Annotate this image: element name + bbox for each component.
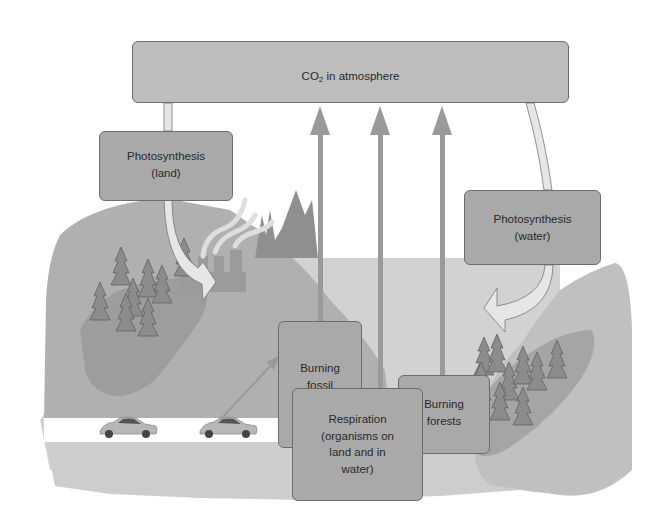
forests-line1: Burning — [424, 396, 464, 413]
respiration-box: Respiration (organisms on land and in wa… — [292, 388, 423, 501]
co2-label-prefix: CO — [302, 70, 319, 82]
photosynthesis-water-box: Photosynthesis (water) — [464, 190, 601, 265]
respiration-line4: water) — [342, 461, 374, 478]
photosynthesis-water-line1: Photosynthesis — [494, 211, 572, 228]
respiration-line3: land and in — [329, 444, 385, 461]
respiration-line2: (organisms on — [321, 428, 394, 445]
photosynthesis-land-line2: (land) — [151, 165, 180, 182]
co2-atmosphere-box: CO2 in atmosphere — [132, 41, 569, 103]
forests-line2: forests — [427, 413, 462, 430]
photosynthesis-land-box: Photosynthesis (land) — [99, 131, 233, 201]
fossil-line1: Burning — [300, 360, 340, 377]
respiration-line1: Respiration — [328, 411, 386, 428]
co2-label-suffix: in atmosphere — [323, 70, 399, 82]
photosynthesis-land-line1: Photosynthesis — [127, 148, 205, 165]
mountains — [255, 190, 318, 258]
photosynthesis-water-line2: (water) — [515, 228, 551, 245]
